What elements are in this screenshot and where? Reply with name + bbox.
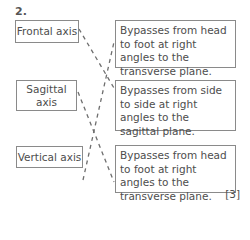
left-item-label: Frontal axis [17, 25, 77, 37]
right-item-text: Bypasses from head to foot at right angl… [120, 24, 227, 77]
marks-label: [3] [225, 188, 240, 200]
connector-frontal [79, 29, 114, 88]
connector-vertical [83, 42, 114, 180]
left-item-sagittal-axis: Sagittal axis [16, 80, 77, 111]
right-item-text: Bypasses from side to side at right angl… [120, 84, 222, 137]
connector-sagittal [78, 92, 114, 182]
right-item-text: Bypasses from head to foot at right angl… [120, 149, 227, 202]
left-item-vertical-axis: Vertical axis [16, 146, 83, 168]
left-item-label: Vertical axis [18, 151, 82, 163]
right-item-2: Bypasses from side to side at right angl… [115, 80, 236, 131]
right-item-3: Bypasses from head to foot at right angl… [115, 145, 236, 193]
right-item-1: Bypasses from head to foot at right angl… [115, 20, 236, 68]
left-item-label: Sagittal axis [25, 83, 69, 109]
left-item-frontal-axis: Frontal axis [15, 20, 79, 43]
